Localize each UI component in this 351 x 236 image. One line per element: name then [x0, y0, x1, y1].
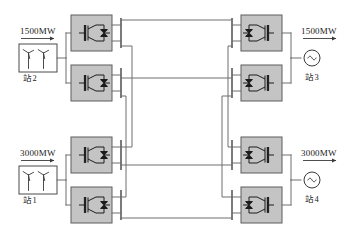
wind-farm-bottom — [19, 161, 57, 195]
power-label-bottom-right: 3000MW — [301, 148, 337, 158]
wind-farm-box-bottom — [19, 166, 57, 194]
converter-L3[interactable] — [71, 137, 112, 173]
converter-R4[interactable] — [241, 187, 282, 223]
dc-stubs-right — [232, 25, 241, 213]
converter-L2[interactable] — [71, 65, 112, 101]
station-label-bottom-right: 站4 — [305, 194, 319, 204]
feeder-bottom-right — [282, 155, 301, 205]
station-label-top-left: 站2 — [23, 73, 36, 83]
converter-R2[interactable] — [241, 65, 282, 101]
power-label-top-left: 1500MW — [20, 26, 56, 36]
converter-L4[interactable] — [71, 187, 112, 223]
converter-R1[interactable] — [241, 15, 282, 51]
power-label-bottom-left: 3000MW — [20, 148, 56, 158]
hvdc-diagram: 1500MW 站2 — [0, 0, 351, 236]
station-label-bottom-left: 站1 — [23, 195, 36, 205]
wind-farm-top — [19, 39, 57, 73]
feeder-top-right — [282, 33, 301, 83]
converter-R3[interactable] — [241, 137, 282, 173]
station-label-top-right: 站3 — [305, 72, 318, 82]
feeder-bottom-left — [57, 155, 71, 205]
wind-farm-box-top — [19, 44, 57, 72]
ac-grid-bottom — [303, 161, 336, 189]
converter-L1[interactable] — [71, 15, 112, 51]
power-label-top-right: 1500MW — [301, 26, 337, 36]
ac-grid-top — [303, 39, 336, 67]
diagram-canvas: 1500MW 站2 — [0, 0, 351, 236]
feeder-top-left — [57, 33, 71, 83]
dc-stubs-left — [112, 25, 121, 213]
